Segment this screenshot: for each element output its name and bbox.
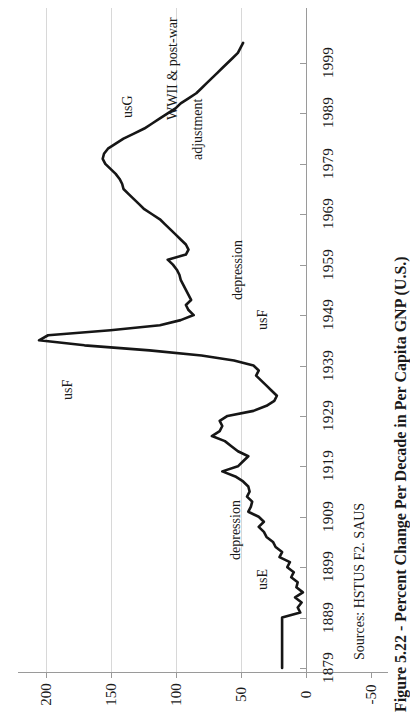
year-axis-label-1939: 1939 <box>319 345 336 385</box>
figure-caption: Figure 5.22 - Percent Change Per Decade … <box>392 256 410 712</box>
year-axis-label-1929: 1929 <box>319 395 336 435</box>
depression-use-line1: depression <box>228 500 244 560</box>
depression-usf-line2: usF <box>255 310 271 330</box>
usf-label: usF <box>60 380 76 400</box>
year-axis-label-1909: 1909 <box>319 496 336 536</box>
wwii-label-line1: WWII & post-war <box>165 17 181 120</box>
value-axis-label-0: 0 <box>297 677 314 713</box>
year-axis-label-1979: 1979 <box>319 143 336 183</box>
year-axis-label-1999: 1999 <box>319 43 336 83</box>
year-axis-label-1969: 1969 <box>319 194 336 234</box>
wwii-label-line2: adjustment <box>190 99 206 160</box>
year-axis-label-1879: 1879 <box>319 648 336 688</box>
year-axis-label-1989: 1989 <box>319 93 336 133</box>
value-axis-label-50: 50 <box>232 677 249 713</box>
year-axis-label-1919: 1919 <box>319 446 336 486</box>
year-axis-label-1889: 1889 <box>319 597 336 637</box>
value-axis-label-200: 200 <box>37 677 54 713</box>
year-axis-label-1949: 1949 <box>319 295 336 335</box>
depression-use-line2: usE <box>255 569 271 590</box>
figure-source: Sources: HSTUS F2. SAUS <box>352 503 368 660</box>
value-axis-label-100: 100 <box>167 677 184 713</box>
year-axis-label-1899: 1899 <box>319 547 336 587</box>
value-axis-label--50: -50 <box>362 677 379 713</box>
depression-usf-line1: depression <box>230 240 246 300</box>
year-axis-label-1959: 1959 <box>319 244 336 284</box>
value-axis-label-150: 150 <box>102 677 119 713</box>
usg-label: usG <box>120 95 136 118</box>
